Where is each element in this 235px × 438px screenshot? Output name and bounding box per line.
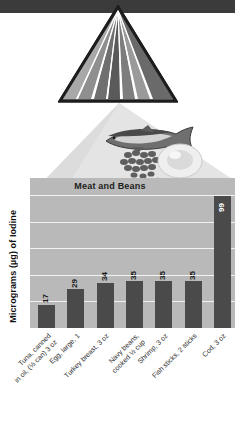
bar-value-label: 17 bbox=[42, 294, 50, 303]
bar bbox=[214, 196, 231, 328]
bar-value-label: 35 bbox=[130, 271, 138, 280]
plot-area: 17293435353599 bbox=[30, 195, 235, 328]
bar-value-label: 99 bbox=[218, 203, 226, 212]
food-guide-pyramid bbox=[58, 5, 178, 105]
egg-illustration bbox=[158, 144, 202, 178]
y-axis-title: Micrograms (µg) of Iodine bbox=[5, 196, 21, 336]
bar-value-label: 34 bbox=[101, 272, 109, 281]
bar bbox=[155, 281, 172, 328]
page-root: Meat and Beans 17293435353599 Micrograms… bbox=[0, 0, 235, 438]
bars-layer: 17293435353599 bbox=[30, 195, 235, 328]
y-axis-title-text: Micrograms (µg) of Iodine bbox=[8, 210, 18, 323]
bar bbox=[185, 281, 202, 328]
bar bbox=[97, 283, 114, 328]
bar bbox=[67, 289, 84, 328]
pyramid-svg bbox=[58, 5, 178, 105]
bar-value-label: 35 bbox=[159, 271, 167, 280]
x-axis-label: Cod, 3 oz bbox=[201, 332, 228, 359]
bar-value-label: 29 bbox=[71, 279, 79, 288]
bar bbox=[38, 305, 55, 328]
bar-chart: Meat and Beans 17293435353599 bbox=[30, 178, 235, 328]
bar bbox=[126, 281, 143, 328]
bar-value-label: 35 bbox=[189, 271, 197, 280]
x-axis-labels: Tuna, cannedin oil, (½ can) 3 ozEgg, lar… bbox=[0, 330, 235, 438]
chart-title: Meat and Beans bbox=[30, 181, 190, 191]
